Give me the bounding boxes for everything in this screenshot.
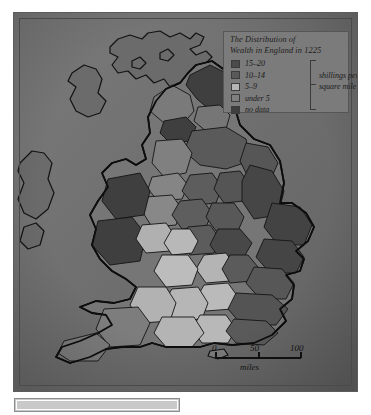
legend-entry: under 5 — [231, 93, 303, 104]
map-page: The Distribution of Wealth in England in… — [0, 0, 371, 415]
legend-swatch-under-5 — [231, 94, 240, 102]
legend-swatch-5-9 — [231, 83, 240, 91]
legend-title: The Distribution of Wealth in England in… — [230, 35, 346, 56]
legend-entry: 15–20 — [231, 58, 303, 69]
legend-title-line2: Wealth in England in 1225 — [230, 46, 346, 57]
legend-label-no-data: no data — [245, 105, 269, 114]
legend-units: shillings per square mile — [319, 70, 358, 92]
legend-entry: 5–9 — [231, 81, 303, 92]
legend-label-under-5: under 5 — [245, 94, 270, 103]
legend-title-line1: The Distribution of — [230, 35, 346, 46]
legend-entry-list: 15–20 10–14 5–9 under 5 no data — [231, 58, 303, 116]
scale-bar: 0 50 100 miles — [212, 343, 324, 379]
caption-inner-frame — [16, 400, 178, 410]
scale-tick-50 — [258, 352, 260, 358]
legend-entry: no data — [231, 104, 303, 115]
legend-label-10-14: 10–14 — [245, 71, 265, 80]
legend-swatch-10-14 — [231, 71, 240, 79]
legend-label-5-9: 5–9 — [245, 82, 257, 91]
legend-swatch-15-20 — [231, 60, 240, 68]
legend-units-line2: square mile — [319, 81, 358, 92]
map-figure: The Distribution of Wealth in England in… — [13, 12, 358, 392]
legend-bracket-tick — [310, 84, 316, 85]
map-legend: The Distribution of Wealth in England in… — [223, 31, 349, 113]
legend-entry: 10–14 — [231, 70, 303, 81]
legend-units-line1: shillings per — [319, 70, 358, 81]
caption-box[interactable] — [14, 398, 180, 412]
scale-tick-100 — [300, 352, 302, 358]
scale-units-label: miles — [240, 362, 259, 372]
legend-label-15-20: 15–20 — [245, 59, 265, 68]
legend-bracket — [310, 60, 316, 110]
scale-tick-0 — [215, 352, 217, 358]
legend-swatch-no-data — [231, 106, 240, 114]
